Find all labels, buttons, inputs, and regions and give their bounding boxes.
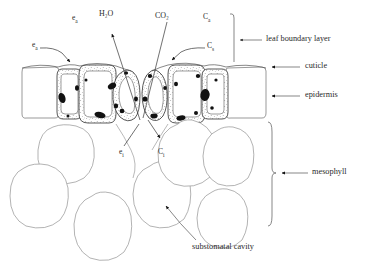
guard-cell-right-lumen <box>148 77 163 114</box>
label-e-i: ei <box>119 148 124 158</box>
subsidiary-cell-left-inner-white <box>61 74 78 114</box>
e-i-leader <box>124 124 139 146</box>
epidermal-cell-left-outer <box>22 67 59 118</box>
mesophyll-cell-6 <box>203 127 254 186</box>
annotation-cuticle: cuticle <box>305 62 327 70</box>
c-s-leader <box>172 48 205 60</box>
e-a-left-leader <box>40 48 70 62</box>
label-c-s: Cs <box>207 42 214 52</box>
boundary-layer-bracket <box>230 14 234 62</box>
mesophyll-bracket <box>268 122 276 226</box>
mesophyll-cell-3 <box>74 192 132 260</box>
annotation-mesophyll: mesophyll <box>312 168 347 176</box>
mesophyll-cell-7 <box>197 189 248 248</box>
mesophyll-cell-layer <box>10 120 254 261</box>
annotation-epidermis: epidermis <box>305 91 338 99</box>
mesophyll-cell-2 <box>10 164 68 228</box>
label-c-i: Ci <box>158 148 165 158</box>
guard-cell-left-lumen <box>119 77 135 114</box>
annotation-leaf-boundary-layer: leaf boundary layer <box>266 35 331 43</box>
label-h2o: H₂O <box>99 10 113 18</box>
subsidiary-cell-right-1-lumen <box>173 71 201 117</box>
epidermal-cell-right-outer <box>226 67 266 118</box>
subsidiary-cell-left-1-lumen <box>84 71 112 117</box>
label-co2: CO₂ <box>155 12 169 20</box>
label-c-a: Ca <box>203 13 210 23</box>
c-i-flux-arrow <box>148 120 160 138</box>
label-e-a-left: ea <box>72 14 78 24</box>
stomata-diagram: ea ea H₂O CO₂ Ca Cs ei Ci leaf boundary … <box>0 0 369 273</box>
annotation-substomatal-cavity: substomatal cavity <box>192 243 254 251</box>
label-e-a-cuticle: ea <box>32 41 38 51</box>
